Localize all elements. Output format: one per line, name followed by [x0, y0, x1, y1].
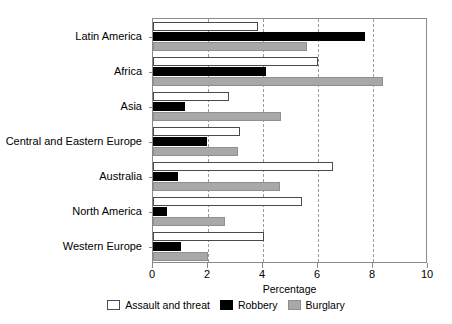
bar [153, 172, 178, 181]
x-axis-tick-label: 2 [192, 268, 222, 281]
bar [153, 242, 181, 251]
bar [153, 92, 229, 101]
bar [153, 32, 365, 41]
bar [153, 217, 225, 226]
category-label: Asia [121, 100, 142, 112]
bar-chart: Latin AmericaAfricaAsiaCentral and Easte… [0, 0, 452, 324]
bar-group [153, 55, 426, 88]
bar-group [153, 160, 426, 193]
category-axis-labels: Latin AmericaAfricaAsiaCentral and Easte… [0, 18, 147, 263]
bar-group [153, 195, 426, 228]
legend-swatch-robbery [220, 300, 233, 310]
bar [153, 112, 281, 121]
bar-group [153, 125, 426, 158]
legend-item-robbery: Robbery [220, 299, 278, 311]
category-label: Central and Eastern Europe [6, 135, 142, 147]
legend-label-assault-and-threat: Assault and threat [125, 299, 210, 311]
category-label: Australia [99, 170, 142, 182]
bar [153, 42, 307, 51]
bar [153, 197, 302, 206]
legend-swatch-burglary [288, 300, 301, 310]
legend-label-burglary: Burglary [306, 299, 345, 311]
x-axis-tick-label: 6 [302, 268, 332, 281]
x-axis-tick-label: 8 [357, 268, 387, 281]
x-axis-title: Percentage [152, 283, 427, 295]
bar [153, 252, 208, 261]
plot-area [152, 18, 427, 263]
x-axis-tick-label: 4 [247, 268, 277, 281]
bar [153, 77, 383, 86]
x-axis-tick-label: 0 [137, 268, 167, 281]
bar [153, 57, 318, 66]
bar [153, 127, 240, 136]
category-label: Latin America [75, 30, 142, 42]
chart-legend: Assault and threat Robbery Burglary [0, 299, 452, 311]
category-label: Western Europe [63, 240, 142, 252]
bar [153, 162, 333, 171]
bar-group [153, 90, 426, 123]
legend-label-robbery: Robbery [238, 299, 278, 311]
bar [153, 102, 185, 111]
bar-group [153, 230, 426, 263]
bar [153, 207, 167, 216]
bar [153, 232, 264, 241]
legend-item-assault-and-threat: Assault and threat [107, 299, 210, 311]
legend-item-burglary: Burglary [288, 299, 345, 311]
bar [153, 22, 258, 31]
legend-swatch-assault-and-threat [107, 300, 120, 310]
category-label: North America [72, 205, 142, 217]
category-label: Africa [114, 65, 142, 77]
bar [153, 137, 207, 146]
bar-group [153, 20, 426, 53]
bar [153, 147, 238, 156]
x-axis-tick-label: 10 [412, 268, 442, 281]
bar [153, 182, 280, 191]
bar [153, 67, 266, 76]
